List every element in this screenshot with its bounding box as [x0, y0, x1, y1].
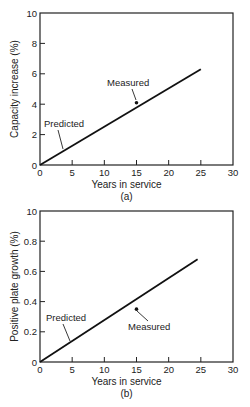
- panel-label: (a): [120, 191, 132, 202]
- x-tick-label: 20: [163, 167, 174, 178]
- y-tick-label: 0.8: [24, 236, 37, 247]
- predicted-leader-line: [58, 130, 63, 149]
- figure: 051015202530 0246810 Years in service Ca…: [0, 0, 250, 407]
- x-tick-label: 10: [99, 167, 110, 178]
- x-tick-label: 5: [70, 364, 75, 375]
- measured-leader-line: [137, 311, 148, 321]
- x-tick-label: 0: [37, 364, 42, 375]
- x-tick-label: 0: [37, 167, 42, 178]
- x-tick-label: 15: [131, 167, 142, 178]
- y-tick-label: 0: [32, 160, 37, 171]
- measured-annotation: Measured: [128, 321, 170, 332]
- x-tick-label: 5: [70, 167, 75, 178]
- x-axis-title: Years in service: [91, 376, 162, 387]
- y-tick-label: 0.2: [24, 326, 37, 337]
- x-ticks: 051015202530: [37, 160, 238, 178]
- annotations: PredictedMeasured: [44, 77, 149, 149]
- y-axis-title: Capacity increase (%): [9, 40, 20, 138]
- y-tick-label: 6: [32, 68, 37, 79]
- predicted-leader-line: [63, 324, 70, 341]
- predicted-annotation: Predicted: [46, 312, 86, 323]
- y-axis-title: Positive plate growth (%): [9, 231, 20, 342]
- predicted-annotation: Predicted: [44, 118, 84, 129]
- x-tick-label: 30: [228, 364, 239, 375]
- y-tick-label: 0: [32, 357, 37, 368]
- y-ticks: 00.20.40.60.810: [24, 206, 45, 368]
- chart-panel-b: 051015202530 00.20.40.60.810 Years in se…: [9, 206, 239, 400]
- x-tick-label: 25: [196, 167, 207, 178]
- measured-leader-line: [132, 89, 136, 100]
- measured-point: [135, 307, 139, 311]
- y-tick-label: 10: [26, 8, 37, 19]
- y-tick-label: 8: [32, 38, 37, 49]
- y-tick-label: 10: [26, 206, 37, 217]
- annotations: PredictedMeasured: [46, 311, 170, 341]
- measured-annotation: Measured: [107, 77, 149, 88]
- plot-frame: [40, 13, 233, 165]
- y-tick-label: 0.4: [24, 296, 37, 307]
- panel-label: (b): [120, 388, 132, 399]
- y-tick-label: 4: [32, 99, 37, 110]
- predicted-line: [40, 259, 198, 362]
- y-ticks: 0246810: [26, 8, 45, 171]
- series-group: [40, 259, 198, 362]
- y-tick-label: 0.6: [24, 266, 37, 277]
- x-tick-label: 30: [228, 167, 239, 178]
- x-tick-label: 20: [163, 364, 174, 375]
- x-tick-label: 10: [99, 364, 110, 375]
- x-tick-label: 15: [131, 364, 142, 375]
- x-ticks: 051015202530: [37, 357, 238, 375]
- measured-point: [135, 101, 139, 105]
- y-tick-label: 2: [32, 129, 37, 140]
- chart-panel-a: 051015202530 0246810 Years in service Ca…: [9, 8, 239, 203]
- x-axis-title: Years in service: [91, 179, 162, 190]
- x-tick-label: 25: [196, 364, 207, 375]
